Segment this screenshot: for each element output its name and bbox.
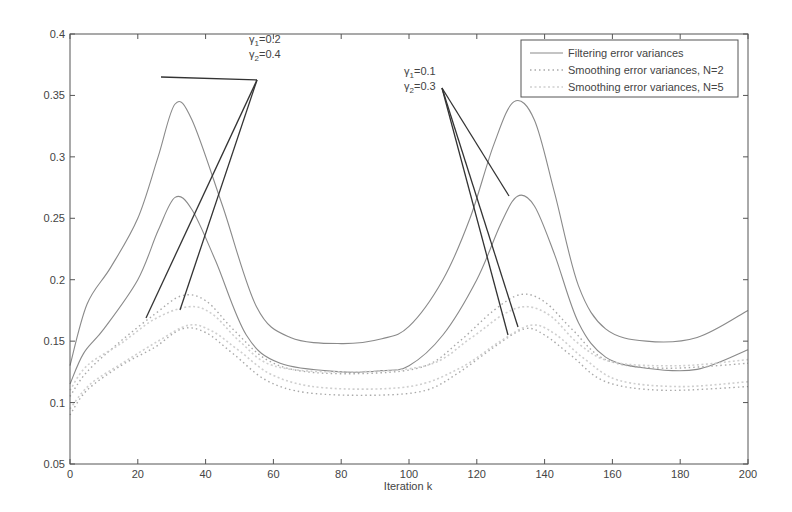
y-tick-label: 0.4: [50, 28, 65, 40]
x-tick-label: 160: [603, 468, 621, 480]
line-chart: γ1=0.2γ2=0.4γ1=0.1γ2=0.3 020406080100120…: [0, 0, 792, 512]
y-tick-label: 0.25: [44, 212, 65, 224]
legend: Filtering error variancesSmoothing error…: [521, 40, 738, 97]
annotation-pointer-2-2: [442, 88, 518, 327]
x-tick-label: 80: [335, 468, 347, 480]
y-tick-label: 0.15: [44, 335, 65, 347]
annotation-pointer-1-0: [161, 77, 257, 80]
svg-text:γ2=0.4: γ2=0.4: [249, 48, 281, 63]
series-line-5: [70, 325, 748, 409]
x-tick-label: 0: [67, 468, 73, 480]
y-tick-label: 0.1: [50, 397, 65, 409]
plot-frame: [70, 34, 748, 464]
x-tick-label: 100: [400, 468, 418, 480]
annotation-layer: γ1=0.2γ2=0.4γ1=0.1γ2=0.3: [146, 33, 518, 335]
annotation-label-1: γ1=0.2γ2=0.4: [249, 33, 281, 63]
annotation-pointer-1-1: [146, 80, 257, 318]
legend-label: Filtering error variances: [568, 47, 684, 59]
annotation-pointer-2-1: [442, 88, 508, 335]
series-line-2: [70, 294, 748, 396]
x-tick-label: 40: [199, 468, 211, 480]
series-line-0: [70, 100, 748, 365]
legend-label: Smoothing error variances, N=2: [568, 64, 724, 76]
annotation-label-2: γ1=0.1γ2=0.3: [404, 65, 436, 95]
svg-text:γ1=0.1: γ1=0.1: [404, 65, 436, 80]
x-tick-label: 140: [535, 468, 553, 480]
x-tick-label: 60: [267, 468, 279, 480]
annotation-pointer-2-0: [442, 88, 509, 196]
x-tick-label: 120: [468, 468, 486, 480]
x-axis-label: Iteration k: [384, 480, 433, 492]
svg-text:γ2=0.3: γ2=0.3: [404, 80, 436, 95]
y-tick-label: 0.05: [44, 458, 65, 470]
x-tick-label: 20: [132, 468, 144, 480]
series-line-3: [70, 307, 748, 391]
y-tick-label: 0.2: [50, 274, 65, 286]
series-layer: [70, 100, 748, 414]
annotation-pointer-1-2: [180, 80, 257, 310]
y-tick-label: 0.35: [44, 89, 65, 101]
x-tick-label: 180: [671, 468, 689, 480]
legend-label: Smoothing error variances, N=5: [568, 81, 724, 93]
series-line-1: [70, 195, 748, 384]
x-tick-label: 200: [739, 468, 757, 480]
y-tick-label: 0.3: [50, 151, 65, 163]
svg-text:γ1=0.2: γ1=0.2: [249, 33, 281, 48]
